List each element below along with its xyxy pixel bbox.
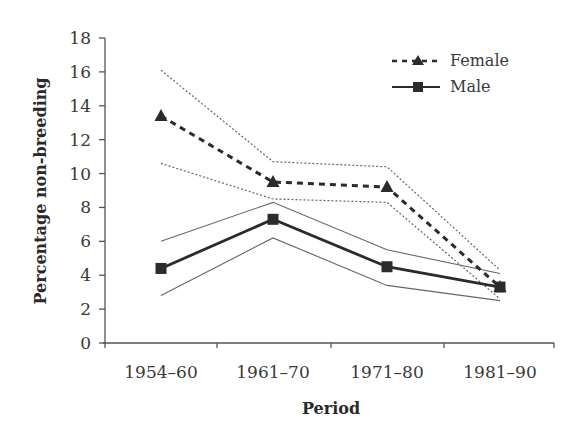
square-marker-icon: [413, 82, 423, 92]
x-axis-title: Period: [302, 399, 360, 418]
y-axis-title: Percentage non-breeding: [31, 77, 50, 304]
y-axis: 024681012141618: [69, 28, 105, 353]
x-tick-label: 1954–60: [124, 362, 197, 382]
y-tick-label: 12: [69, 130, 91, 150]
data-markers: [155, 109, 507, 293]
y-tick-label: 18: [69, 28, 91, 48]
y-tick-label: 6: [80, 231, 91, 251]
x-axis: 1954–601961–701971–801981–90: [103, 343, 554, 382]
y-tick-label: 16: [69, 62, 91, 82]
legend: Female Male: [392, 51, 509, 96]
x-tick-label: 1971–80: [350, 362, 423, 382]
y-tick-label: 2: [80, 299, 91, 319]
square-marker-icon: [268, 214, 279, 225]
upper-ci-line: [161, 202, 500, 273]
x-tick-label: 1981–90: [463, 362, 536, 382]
y-tick-label: 8: [80, 197, 91, 217]
triangle-marker-icon: [155, 109, 168, 121]
legend-label-female: Female: [450, 51, 509, 70]
y-tick-label: 10: [69, 164, 91, 184]
square-marker-icon: [156, 263, 167, 274]
legend-label-male: Male: [450, 77, 491, 96]
legend-item-female: Female: [392, 51, 509, 70]
x-tick-label: 1961–70: [236, 362, 309, 382]
line-chart: 024681012141618 1954–601961–701971–80198…: [0, 0, 583, 434]
y-tick-label: 4: [80, 265, 91, 285]
series-line: [161, 219, 500, 287]
square-marker-icon: [382, 261, 393, 272]
y-tick-label: 14: [69, 96, 91, 116]
legend-item-male: Male: [392, 77, 491, 96]
y-tick-label: 0: [80, 333, 91, 353]
triangle-marker-icon: [381, 180, 394, 192]
square-marker-icon: [495, 282, 506, 293]
upper-ci-line: [161, 70, 500, 270]
